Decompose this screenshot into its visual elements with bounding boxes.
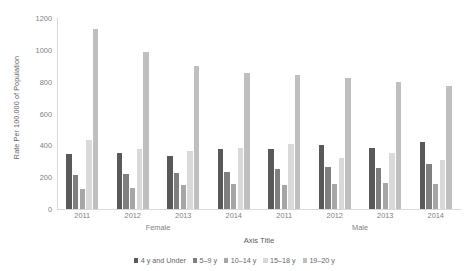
bar[interactable]: [288, 144, 293, 209]
y-axis-tick-label: 1000: [36, 45, 52, 54]
bar[interactable]: [446, 86, 451, 209]
bar-group: [57, 18, 108, 209]
x-axis-group-labels: FemaleMale: [57, 223, 461, 235]
bar[interactable]: [383, 183, 388, 209]
y-axis-tick-label: 1200: [36, 14, 52, 23]
bar[interactable]: [73, 175, 78, 209]
y-axis-title: Rate Per 100,000 of Population: [10, 0, 24, 215]
bar[interactable]: [187, 151, 192, 209]
chart-legend: 4 y and Under5–9 y10–14 y15–18 y19–20 y: [0, 256, 469, 265]
bar[interactable]: [420, 142, 425, 209]
bar[interactable]: [282, 185, 287, 209]
x-axis-group-label: Female: [146, 223, 171, 232]
bar[interactable]: [194, 66, 199, 209]
legend-swatch-icon: [303, 258, 307, 262]
y-axis-tick-labels: 020040060080010001200: [0, 0, 57, 271]
bar[interactable]: [86, 140, 91, 209]
y-axis-tick-label: 600: [40, 109, 52, 118]
bar[interactable]: [433, 184, 438, 209]
bar-group: [411, 18, 462, 209]
bar[interactable]: [117, 153, 122, 209]
bar[interactable]: [231, 184, 236, 209]
legend-item[interactable]: 15–18 y: [263, 256, 295, 265]
legend-label: 10–14 y: [231, 256, 257, 265]
bar[interactable]: [80, 189, 85, 209]
legend-item[interactable]: 5–9 y: [193, 256, 217, 265]
bar[interactable]: [345, 78, 350, 209]
chart-container: Rate Per 100,000 of Population 020040060…: [0, 0, 469, 271]
bar[interactable]: [218, 149, 223, 209]
bar[interactable]: [325, 167, 330, 209]
bar-group: [108, 18, 159, 209]
bar[interactable]: [440, 160, 445, 209]
legend-swatch-icon: [134, 258, 138, 262]
x-axis-title: Axis Title: [57, 236, 461, 245]
bar[interactable]: [123, 174, 128, 209]
bar[interactable]: [332, 184, 337, 209]
bar[interactable]: [224, 172, 229, 209]
bar[interactable]: [130, 188, 135, 209]
bar[interactable]: [295, 75, 300, 209]
bar-group: [310, 18, 361, 209]
bar-group: [158, 18, 209, 209]
y-axis-title-text: Rate Per 100,000 of Population: [13, 56, 22, 159]
bar[interactable]: [319, 145, 324, 209]
y-axis-tick-label: 0: [48, 205, 52, 214]
bar[interactable]: [396, 82, 401, 209]
legend-swatch-icon: [224, 258, 228, 262]
x-axis-line: [57, 209, 461, 210]
y-axis-tick-label: 200: [40, 173, 52, 182]
bar[interactable]: [238, 148, 243, 209]
x-axis-group-label: Male: [352, 223, 368, 232]
plot-area: [57, 18, 461, 209]
y-axis-tick-label: 800: [40, 77, 52, 86]
legend-swatch-icon: [193, 258, 197, 262]
bar-group: [360, 18, 411, 209]
legend-item[interactable]: 10–14 y: [224, 256, 256, 265]
bar[interactable]: [167, 156, 172, 209]
legend-label: 5–9 y: [200, 256, 218, 265]
legend-label: 15–18 y: [270, 256, 296, 265]
legend-label: 19–20 y: [309, 256, 335, 265]
bar[interactable]: [137, 149, 142, 209]
bar[interactable]: [66, 154, 71, 209]
bar[interactable]: [369, 148, 374, 209]
legend-label: 4 y and Under: [141, 256, 186, 265]
legend-swatch-icon: [263, 258, 267, 262]
bar[interactable]: [268, 149, 273, 209]
bar[interactable]: [244, 73, 249, 209]
bar[interactable]: [426, 164, 431, 209]
bar[interactable]: [174, 173, 179, 209]
bar[interactable]: [376, 168, 381, 209]
y-axis-tick-label: 400: [40, 141, 52, 150]
bar[interactable]: [181, 185, 186, 209]
bar-group: [259, 18, 310, 209]
legend-item[interactable]: 19–20 y: [303, 256, 335, 265]
legend-item[interactable]: 4 y and Under: [134, 256, 186, 265]
bar-group: [209, 18, 260, 209]
bar[interactable]: [389, 153, 394, 209]
bar[interactable]: [93, 29, 98, 209]
bar[interactable]: [339, 158, 344, 209]
bar[interactable]: [143, 52, 148, 209]
bar[interactable]: [275, 169, 280, 209]
